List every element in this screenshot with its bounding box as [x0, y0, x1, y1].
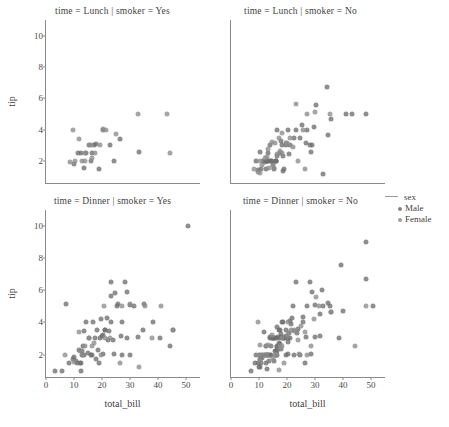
x-tick-label: 40: [154, 380, 163, 390]
scatter-point: [276, 368, 281, 373]
x-tick-label: 20: [283, 380, 292, 390]
scatter-point: [142, 304, 147, 309]
scatter-point: [265, 366, 270, 371]
scatter-point: [304, 112, 309, 117]
scatter-point: [111, 352, 116, 357]
facet-title: time = Lunch | smoker = No: [208, 6, 393, 16]
scatter-point: [90, 155, 95, 160]
scatter-point: [88, 143, 93, 148]
scatter-point: [150, 320, 155, 325]
scatter-point: [92, 340, 97, 345]
scatter-point: [312, 124, 317, 129]
legend-item-male[interactable]: Male: [398, 203, 449, 214]
legend-label-male: Male: [405, 203, 424, 214]
scatter-point: [136, 334, 141, 339]
scatter-point: [273, 352, 278, 357]
scatter-point: [127, 302, 132, 307]
legend-rule: [385, 196, 398, 197]
scatter-point: [282, 166, 287, 171]
scatter-point: [84, 320, 89, 325]
scatter-point: [296, 337, 301, 342]
scatter-point: [264, 352, 269, 357]
scatter-point: [91, 320, 96, 325]
x-tick-label: 40: [339, 380, 348, 390]
scatter-point: [312, 109, 317, 114]
y-tick-mark: [43, 258, 46, 259]
scatter-point: [119, 304, 124, 309]
legend-title: sex: [404, 192, 449, 202]
scatter-point: [300, 127, 305, 132]
scatter-point: [285, 352, 290, 357]
scatter-point: [164, 112, 169, 117]
scatter-point: [258, 170, 263, 175]
scatter-point: [157, 336, 162, 341]
legend-swatch-male-icon: [398, 207, 402, 211]
scatter-point: [81, 165, 86, 170]
scatter-point: [297, 135, 302, 140]
scatter-point: [257, 342, 262, 347]
scatter-point: [122, 280, 127, 285]
scatter-point: [106, 328, 111, 333]
figure-canvas: tip tip time = Lunch | smoker = Yes 2468…: [0, 0, 449, 427]
scatter-point: [107, 336, 112, 341]
scatter-point: [364, 240, 369, 245]
x-tick-mark: [186, 377, 187, 380]
scatter-point: [353, 344, 358, 349]
scatter-point: [299, 324, 304, 329]
y-tick-mark: [43, 322, 46, 323]
facet-title: time = Lunch | smoker = Yes: [20, 6, 205, 16]
x-tick-mark: [259, 377, 260, 380]
scatter-point: [117, 360, 122, 365]
x-tick-mark: [74, 377, 75, 380]
scatter-point: [135, 112, 140, 117]
x-tick-label: 10: [70, 380, 79, 390]
scatter-point: [78, 360, 83, 365]
x-tick-label: 30: [311, 380, 320, 390]
scatter-point: [339, 262, 344, 267]
scatter-point: [101, 304, 106, 309]
scatter-point: [83, 344, 88, 349]
scatter-point: [302, 360, 307, 365]
scatter-point: [70, 127, 75, 132]
scatter-point: [371, 304, 376, 309]
scatter-point: [97, 360, 102, 365]
x-tick-mark: [130, 377, 131, 380]
scatter-point: [308, 150, 313, 155]
plot-area: 01020304050: [230, 210, 385, 378]
x-tick-label: 0: [44, 380, 49, 390]
scatter-point: [168, 344, 173, 349]
scatter-point: [99, 317, 104, 322]
x-tick-mark: [371, 377, 372, 380]
legend-swatch-female-icon: [398, 218, 402, 222]
legend: sex Male Female: [398, 192, 449, 225]
scatter-point: [282, 360, 287, 365]
scatter-point: [168, 151, 173, 156]
y-tick-mark: [43, 129, 46, 130]
scatter-point: [293, 280, 298, 285]
y-tick-mark: [43, 98, 46, 99]
y-tick-mark: [43, 354, 46, 355]
facet-title: time = Dinner | smoker = No: [208, 196, 393, 206]
scatter-point: [308, 343, 313, 348]
scatter-point: [186, 224, 191, 229]
scatter-point: [107, 143, 112, 148]
scatter-point: [64, 301, 69, 306]
scatter-point: [265, 147, 270, 152]
scatter-point: [291, 135, 296, 140]
y-tick-mark: [43, 290, 46, 291]
scatter-point: [136, 364, 141, 369]
scatter-point: [280, 151, 285, 156]
scatter-point: [62, 352, 67, 357]
x-tick-label: 50: [367, 380, 376, 390]
facet-lunch-smoker-yes: time = Lunch | smoker = Yes 246810: [20, 6, 205, 196]
scatter-point: [125, 289, 130, 294]
scatter-point: [327, 112, 332, 117]
scatter-point: [287, 135, 292, 140]
scatter-point: [319, 288, 324, 293]
legend-item-female[interactable]: Female: [398, 214, 449, 225]
x-axis-label-left: total_bill: [45, 398, 200, 409]
y-tick-mark: [43, 35, 46, 36]
scatter-point: [257, 357, 262, 362]
y-tick-label: 10: [34, 221, 43, 231]
y-tick-label: 10: [34, 31, 43, 41]
